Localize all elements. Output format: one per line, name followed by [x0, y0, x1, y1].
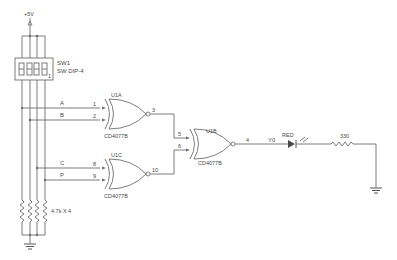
pin-label: 3	[152, 107, 155, 113]
gate-part: CD4077B	[198, 160, 222, 166]
pin-label: 2	[93, 113, 96, 119]
led-icon	[288, 137, 308, 148]
switch-value: SW DIP-4	[57, 68, 84, 74]
signal-c: C	[60, 160, 65, 166]
xnor-gate-u1a	[102, 99, 150, 129]
signal-b: B	[60, 112, 64, 118]
pin-label: 8	[93, 161, 96, 167]
pin-label: 6	[178, 143, 181, 149]
gate-part: CD4077B	[104, 193, 128, 199]
gate-part: CD4077B	[104, 133, 128, 139]
signal-y0: Y0	[268, 137, 276, 143]
ground-icon	[24, 235, 36, 249]
pullup-resistors	[20, 200, 47, 222]
schematic-canvas: +5V 1 SW1 SW DIP-4 4.7k X 4	[0, 0, 397, 260]
gate-ref: U1B	[206, 128, 217, 134]
switch-ref: SW1	[57, 60, 71, 66]
ground-icon	[370, 188, 382, 193]
pin-label: 1	[93, 101, 96, 107]
pin-label: 4	[246, 137, 249, 143]
gate-ref: U1C	[111, 152, 122, 158]
pullup-label: 4.7k X 4	[51, 208, 71, 214]
xnor-gate-u1c	[102, 159, 150, 189]
power-label: +5V	[24, 11, 34, 17]
resistor-value: 330	[340, 133, 349, 139]
pin-label: 10	[152, 167, 158, 173]
led-label: RED	[282, 132, 294, 138]
signal-p: P	[60, 172, 64, 178]
dip-switch: 1	[15, 58, 53, 80]
pin-label: 5	[178, 131, 181, 137]
resistor-icon	[331, 142, 353, 146]
pin1-mark: 1	[48, 73, 51, 79]
power-arrow-icon	[28, 18, 32, 36]
gate-ref: U1A	[111, 92, 122, 98]
signal-a: A	[60, 100, 64, 106]
pin-label: 9	[93, 173, 96, 179]
